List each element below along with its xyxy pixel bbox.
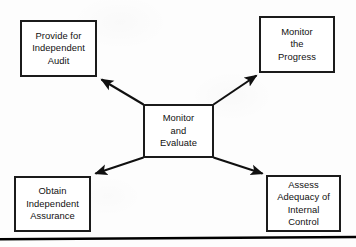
- node-label: Monitor the Progress: [276, 26, 318, 63]
- node-label: Provide for Independent Audit: [30, 30, 87, 67]
- diagram-page: Provide for Independent Audit Monitor th…: [0, 0, 356, 247]
- node-label: Assess Adequacy of Internal Control: [275, 179, 332, 229]
- arrow-center-to-assess-adequacy-of-internal-control: [214, 158, 263, 174]
- node-label: Monitor and Evaluate: [158, 112, 199, 149]
- footer-horizontal-rule: [0, 234, 356, 244]
- arrow-center-to-provide-for-independent-audit: [102, 80, 144, 105]
- node-monitor-and-evaluate: Monitor and Evaluate: [143, 104, 214, 158]
- node-obtain-independent-assurance: Obtain Independent Assurance: [14, 176, 91, 232]
- node-assess-adequacy-of-internal-control: Assess Adequacy of Internal Control: [266, 175, 341, 232]
- arrow-center-to-monitor-the-progress: [214, 76, 257, 105]
- node-provide-for-independent-audit: Provide for Independent Audit: [20, 20, 97, 77]
- node-monitor-the-progress: Monitor the Progress: [259, 16, 335, 73]
- arrow-center-to-obtain-independent-assurance: [96, 158, 144, 174]
- node-label: Obtain Independent Assurance: [24, 185, 81, 222]
